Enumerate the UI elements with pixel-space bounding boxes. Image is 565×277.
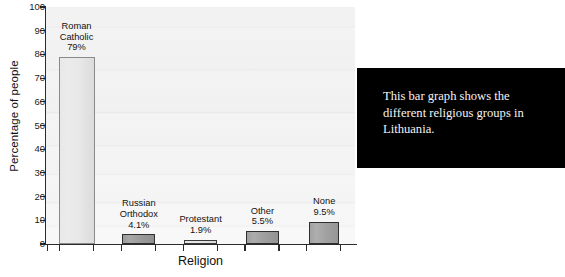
x-axis-tick [278, 245, 279, 251]
x-axis-tick [306, 245, 307, 251]
x-axis-tick [93, 245, 94, 251]
bar[interactable] [122, 234, 155, 244]
bar-label: RussianOrthodox4.1% [120, 198, 158, 230]
y-axis-tick-label: 60 [19, 97, 45, 107]
bar[interactable] [246, 231, 279, 244]
bar-category-label: Russian [120, 198, 158, 209]
x-axis-title: Religion [46, 254, 355, 268]
bar-label: Protestant1.9% [179, 214, 221, 235]
x-axis-tick [340, 245, 341, 251]
x-axis-tick [47, 245, 48, 251]
x-axis-tick [121, 245, 122, 251]
bar-group: RussianOrthodox4.1% [122, 0, 155, 244]
bar-value-label: 4.1% [120, 220, 158, 231]
bar[interactable] [309, 222, 339, 245]
bar-value-label: 5.5% [251, 216, 274, 227]
bar-chart-figure: Percentage of people 1009080706050403020… [0, 0, 565, 277]
caption-text: This bar graph shows the different relig… [383, 88, 543, 138]
bar-label: Other5.5% [251, 206, 274, 227]
bar-value-label: 9.5% [313, 207, 335, 218]
page-edge [559, 256, 565, 277]
bar-category-label: Other [251, 206, 274, 217]
y-axis-tick-label: 0 [19, 239, 45, 249]
bar-group: None9.5% [309, 0, 339, 244]
caption-box: This bar graph shows the different relig… [357, 68, 565, 168]
x-axis-tick [155, 245, 156, 251]
y-axis-tick-label: 20 [19, 192, 45, 202]
bar-group: Other5.5% [246, 0, 279, 244]
bar-group: RomanCatholic79% [59, 0, 95, 244]
x-axis-tick [217, 245, 218, 251]
y-axis-tick-label: 90 [19, 26, 45, 36]
y-axis-line [45, 6, 46, 245]
bar[interactable] [59, 57, 95, 244]
bar-group: Protestant1.9% [184, 0, 217, 244]
y-axis-tick-label: 70 [19, 73, 45, 83]
bar-value-label: 79% [60, 42, 94, 53]
y-axis-tick-label: 40 [19, 144, 45, 154]
x-axis-tick [183, 245, 184, 251]
bar-category-label: Roman [60, 21, 94, 32]
bar-value-label: 1.9% [179, 225, 221, 236]
bar-category-label: None [313, 196, 335, 207]
y-axis-tick-label: 80 [19, 50, 45, 60]
bar[interactable] [184, 240, 217, 245]
y-axis-tick-label: 50 [19, 121, 45, 131]
bar-category-label: Orthodox [120, 209, 158, 220]
bar-category-label: Protestant [179, 214, 221, 225]
x-axis-tick [59, 245, 60, 251]
bar-label: None9.5% [313, 196, 335, 217]
y-axis-tick-label: 10 [19, 216, 45, 226]
bar-label: RomanCatholic79% [60, 21, 94, 53]
x-axis-tick [244, 245, 245, 251]
bar-category-label: Catholic [60, 32, 94, 43]
y-axis-tick-label: 100 [19, 2, 45, 12]
y-axis-tick-label: 30 [19, 168, 45, 178]
